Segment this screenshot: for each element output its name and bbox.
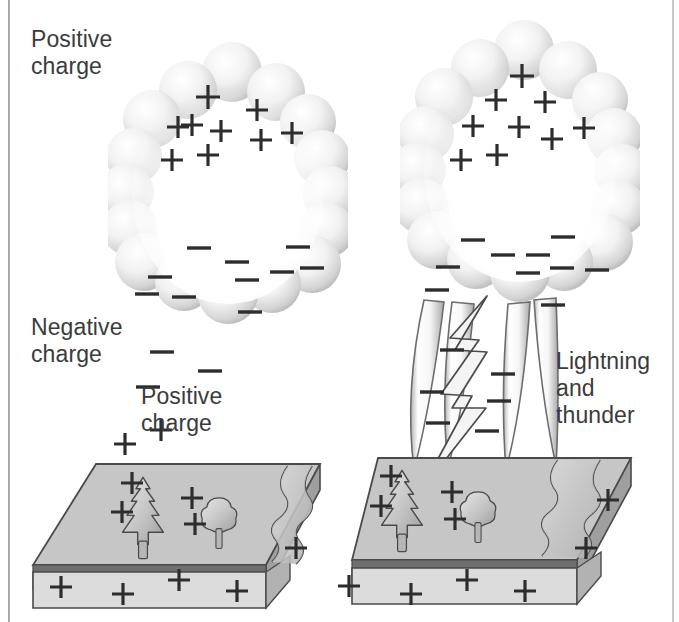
lightning-diagram-figure: Positive charge Negative charge Positive… bbox=[0, 0, 679, 622]
label-lightning-and-thunder: Lightning and thunder bbox=[556, 348, 650, 429]
label-positive-charge-middle: Positive charge bbox=[141, 383, 222, 437]
thundercloud bbox=[98, 42, 358, 324]
diagram-canvas bbox=[0, 0, 679, 622]
lightning-strike-panel bbox=[338, 20, 650, 605]
label-positive-charge-top: Positive charge bbox=[31, 26, 112, 80]
rain-shaft bbox=[411, 298, 558, 470]
thundercloud bbox=[390, 20, 650, 302]
air-negative-charges bbox=[136, 352, 222, 387]
label-negative-charge: Negative charge bbox=[31, 314, 123, 368]
